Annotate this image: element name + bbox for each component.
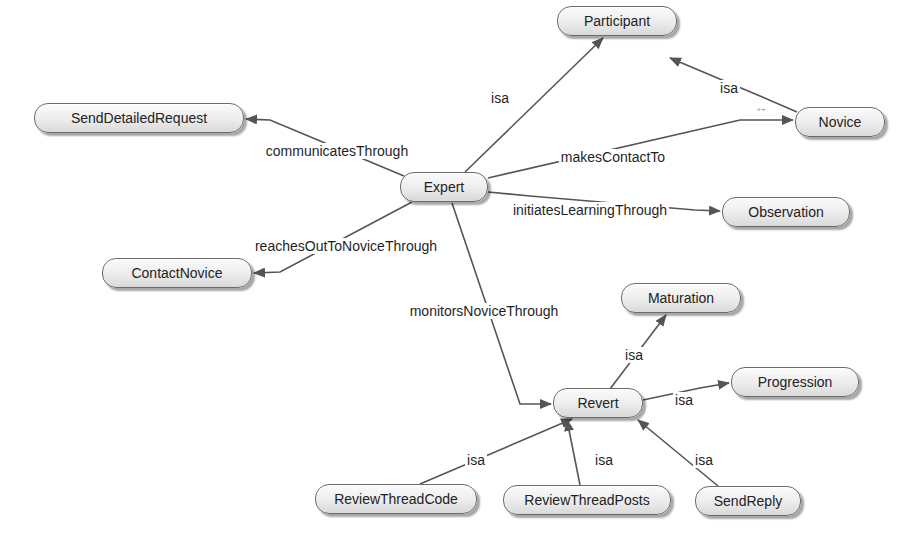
edge-label-novice-participant: isa	[718, 80, 740, 96]
edge-label-expert-senddetailedrequest: communicatesThrough	[264, 143, 410, 159]
edge-label-revert-maturation: isa	[623, 347, 645, 363]
node-sendreply[interactable]: SendReply	[695, 486, 801, 516]
node-contactnovice[interactable]: ContactNovice	[102, 258, 252, 288]
node-novice[interactable]: Novice	[795, 107, 885, 137]
edge-label-expert-novice: makesContactTo	[559, 149, 667, 165]
edge-reviewthreadcode-revert[interactable]	[420, 419, 572, 484]
node-reviewthreadcode[interactable]: ReviewThreadCode	[315, 484, 477, 514]
edge-label-expert-revert: monitorsNoviceThrough	[408, 303, 561, 319]
double-arrow-icon: ↔	[755, 100, 768, 115]
node-expert[interactable]: Expert	[400, 172, 488, 202]
edges-layer	[246, 38, 797, 486]
node-progression[interactable]: Progression	[731, 367, 859, 397]
edge-label-reviewthreadcode-revert: isa	[465, 452, 487, 468]
edge-label-reviewthreadposts-revert: isa	[593, 452, 615, 468]
edge-label-revert-progression: isa	[673, 392, 695, 408]
edge-label-expert-observation: initiatesLearningThrough	[511, 202, 669, 218]
node-reviewthreadposts[interactable]: ReviewThreadPosts	[503, 485, 671, 515]
edge-label-expert-participant: isa	[489, 90, 511, 106]
node-maturation[interactable]: Maturation	[621, 283, 741, 313]
node-observation[interactable]: Observation	[722, 197, 850, 227]
edge-label-expert-contactnovice: reachesOutToNoviceThrough	[253, 238, 439, 254]
node-revert[interactable]: Revert	[553, 388, 643, 418]
node-participant[interactable]: Participant	[557, 6, 677, 36]
edge-reviewthreadposts-revert[interactable]	[567, 420, 580, 485]
node-senddetailedrequest[interactable]: SendDetailedRequest	[34, 103, 244, 133]
edge-label-sendreply-revert: isa	[693, 452, 715, 468]
